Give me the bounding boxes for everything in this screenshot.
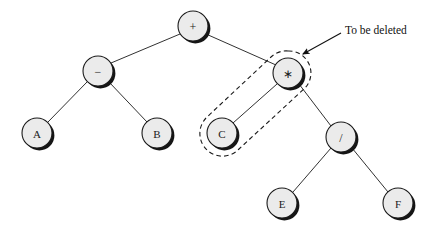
node-f[interactable]: F <box>383 188 415 220</box>
edge-div-f <box>352 148 388 192</box>
annotation-group: To be deleted <box>303 24 407 54</box>
node-minus-label: − <box>95 65 102 79</box>
node-c-label: C <box>218 128 225 140</box>
node-e-label: E <box>279 198 286 210</box>
annotation-text: To be deleted <box>345 24 407 36</box>
node-b-label: B <box>153 128 160 140</box>
node-e[interactable]: E <box>267 188 299 220</box>
edge-root-minus <box>111 34 180 63</box>
node-c[interactable]: C <box>207 118 239 150</box>
edge-minus-a <box>48 82 87 122</box>
expression-tree-figure: + − ∗ A <box>0 0 441 236</box>
node-plus[interactable]: + <box>178 11 210 43</box>
node-b[interactable]: B <box>142 118 174 150</box>
edge-root-times <box>206 34 276 65</box>
node-f-label: F <box>395 198 401 210</box>
node-group: + − ∗ A <box>22 11 415 220</box>
node-minus[interactable]: − <box>83 56 115 88</box>
edge-times-c <box>233 84 277 123</box>
edge-times-div <box>299 84 331 126</box>
node-times[interactable]: ∗ <box>273 58 305 90</box>
node-times-label: ∗ <box>283 67 293 81</box>
tree-diagram-svg: + − ∗ A <box>0 0 441 236</box>
node-divide[interactable]: / <box>326 122 358 154</box>
node-plus-label: + <box>190 20 197 34</box>
edge-minus-b <box>109 82 147 122</box>
node-a-label: A <box>33 128 41 140</box>
annotation-arrow <box>303 33 341 54</box>
node-a[interactable]: A <box>22 118 54 150</box>
edge-div-e <box>293 148 331 192</box>
